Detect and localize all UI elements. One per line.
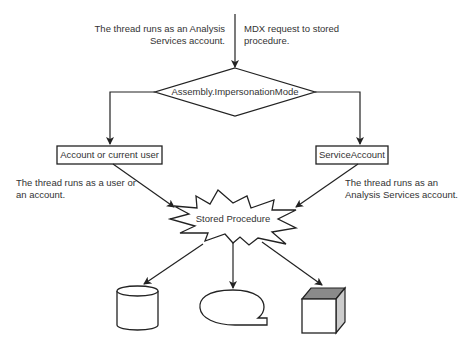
right-branch-connector bbox=[315, 92, 360, 144]
mid-left-annotation: The thread runs as a user or an account. bbox=[16, 177, 136, 201]
left-box-label: Account or current user bbox=[57, 149, 162, 161]
procedure-to-cube-arrow bbox=[262, 242, 322, 285]
procedure-to-database-arrow bbox=[144, 244, 203, 284]
right-box-label: ServiceAccount bbox=[316, 149, 388, 161]
annotation-line: Analysis Services account. bbox=[345, 189, 458, 201]
annotation-line: The thread runs as an bbox=[345, 177, 458, 189]
annotation-line: The thread runs as a user or bbox=[16, 177, 136, 189]
left-branch-connector bbox=[110, 92, 155, 144]
annotation-line: Services account. bbox=[95, 35, 225, 47]
cube-icon bbox=[302, 288, 345, 333]
annotation-line: MDX request to stored bbox=[244, 23, 339, 35]
callout-icon bbox=[200, 290, 267, 325]
top-left-annotation: The thread runs as an Analysis Services … bbox=[95, 23, 225, 47]
mid-right-annotation: The thread runs as an Analysis Services … bbox=[345, 177, 458, 201]
database-icon bbox=[117, 286, 158, 330]
top-right-annotation: MDX request to stored procedure. bbox=[244, 23, 339, 47]
annotation-line: procedure. bbox=[244, 35, 339, 47]
decision-label: Assembly.ImpersonationMode bbox=[155, 86, 315, 98]
annotation-line: The thread runs as an Analysis bbox=[95, 23, 225, 35]
annotation-line: an account. bbox=[16, 189, 136, 201]
starburst-label: Stored Procedure bbox=[183, 213, 283, 225]
flow-diagram: The thread runs as an Analysis Services … bbox=[0, 0, 465, 347]
diagram-graphics bbox=[0, 0, 465, 347]
